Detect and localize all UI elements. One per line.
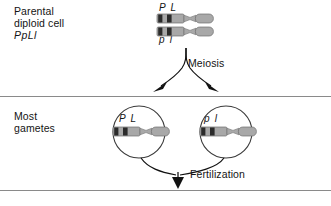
gamete-cell-right bbox=[200, 106, 256, 158]
fertilization-arrowhead bbox=[172, 177, 184, 189]
meiosis-fertilization-diagram: Parentaldiploid cell PpLl Mostgametes P … bbox=[0, 0, 331, 206]
parental-chromosome-top bbox=[157, 14, 213, 23]
gamete-cell-left bbox=[113, 106, 169, 158]
diagram-graphics-layer bbox=[0, 0, 331, 206]
meiosis-arrow bbox=[161, 48, 211, 86]
parental-chromosome-bottom bbox=[157, 27, 213, 36]
